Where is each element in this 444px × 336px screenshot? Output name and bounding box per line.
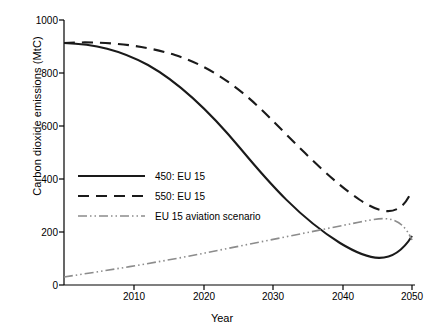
legend-label-450-eu15: 450: EU 15 [155, 171, 205, 182]
legend-label-550-eu15: 550: EU 15 [155, 191, 205, 202]
y-tick-label: 800 [41, 68, 58, 79]
y-tick-label: 400 [41, 174, 58, 185]
x-tick-label: 2050 [401, 291, 424, 302]
y-tick-label: 0 [52, 280, 58, 291]
legend-label-aviation-scenario: EU 15 aviation scenario [155, 211, 261, 222]
x-tick-label: 2030 [262, 291, 285, 302]
y-axis-ticks [59, 20, 64, 285]
y-axis-tick-labels: 1000 800 600 400 200 0 [36, 15, 59, 291]
series-line-aviation-scenario [64, 219, 412, 277]
x-axis-ticks [134, 285, 412, 290]
chart-plot-area: 1000 800 600 400 200 0 2010 2020 2030 20… [0, 0, 444, 336]
x-tick-label: 2020 [193, 291, 216, 302]
x-tick-label: 2040 [332, 291, 355, 302]
y-tick-label: 600 [41, 121, 58, 132]
x-tick-label: 2010 [123, 291, 146, 302]
series-line-450-eu15 [64, 43, 412, 258]
chart-container: Carbon dioxide emissions (MtC) Year 1000… [0, 0, 444, 336]
y-tick-label: 1000 [36, 15, 59, 26]
series-line-550-eu15 [64, 42, 412, 211]
chart-legend: 450: EU 15 550: EU 15 EU 15 aviation sce… [78, 171, 261, 222]
x-axis-tick-labels: 2010 2020 2030 2040 2050 [123, 291, 424, 302]
y-tick-label: 200 [41, 227, 58, 238]
